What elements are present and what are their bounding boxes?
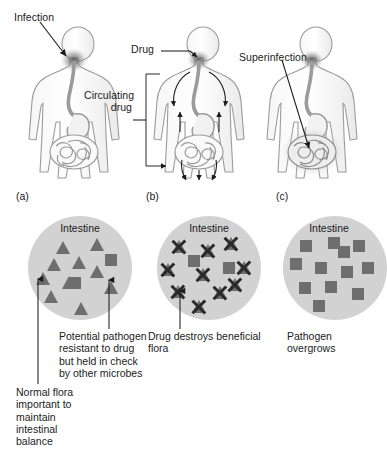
panel-letter-b: (b) [146, 190, 159, 202]
infection-label: Infection [14, 12, 54, 24]
pathogen-square [353, 240, 365, 252]
pathogen-overgrows-callout: Pathogen overgrows [287, 330, 377, 355]
body-figure-c [267, 27, 357, 178]
drug-destroys-flora-callout: Drug destroys beneficial flora [148, 330, 280, 355]
human-figures-row [0, 0, 382, 200]
panel-letter-c: (c) [276, 190, 288, 202]
pathogen-square [300, 240, 312, 252]
intestine-title-c: Intestine [277, 222, 381, 234]
destroyed-x-icon [170, 238, 188, 256]
circulating-drug-label: Circulating drug [84, 90, 132, 113]
destroyed-x-icon [199, 242, 217, 260]
superinfection-label: Superinfection [239, 52, 307, 64]
pathogen-square [338, 246, 350, 258]
intestine-title-a: Intestine [28, 222, 132, 234]
intestine-title-b: Intestine [157, 222, 261, 234]
normal-flora-triangle [56, 241, 70, 254]
destroyed-x-icon [222, 235, 240, 253]
normal-flora-callout: Normal flora important to maintain intes… [16, 386, 126, 447]
normal-flora-triangle [90, 238, 104, 251]
drug-label: Drug [131, 44, 154, 56]
panel-letter-a: (a) [16, 190, 29, 202]
